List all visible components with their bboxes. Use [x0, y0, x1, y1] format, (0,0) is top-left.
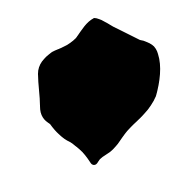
grid-and-region: [0, 0, 183, 183]
contour-grid-diagram: [0, 0, 183, 183]
shaded-region: [38, 18, 160, 165]
